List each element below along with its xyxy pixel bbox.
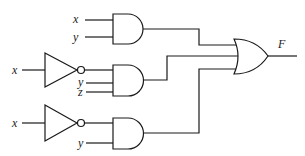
and-gate-1 — [113, 14, 143, 44]
not-gate-2 — [45, 105, 77, 141]
input-label-y-3: y — [77, 136, 84, 150]
not-gate-1-bubble — [78, 67, 85, 74]
logic-circuit-diagram: x y x y z x y F — [0, 0, 305, 156]
and-gate-2 — [113, 65, 144, 96]
input-label-z: z — [77, 85, 83, 99]
wire-and1-to-or — [143, 29, 238, 45]
input-label-y-1: y — [72, 30, 79, 44]
wire-and2-to-or — [144, 56, 241, 80]
input-label-x-3: x — [11, 116, 18, 130]
and-gate-3 — [113, 118, 143, 149]
input-label-x-2: x — [11, 63, 18, 77]
not-gate-2-bubble — [78, 120, 85, 127]
output-label-f: F — [277, 37, 286, 51]
wire-and3-to-or — [144, 69, 239, 133]
input-label-x-1: x — [72, 12, 79, 26]
not-gate-1 — [45, 53, 77, 87]
or-gate — [234, 39, 268, 74]
